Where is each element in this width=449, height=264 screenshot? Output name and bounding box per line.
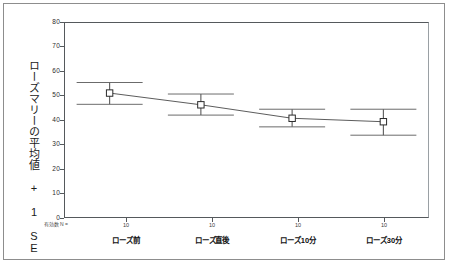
y-tick-mark-10 [60,193,64,194]
x-category-label-4: ローズ30分 [339,236,429,245]
y-tick-label-50: 50 [34,92,60,99]
x-count-4: 10 [364,222,404,228]
y-tick-label-80: 80 [34,19,60,26]
y-tick-label-30: 30 [34,141,60,148]
y-tick-label-60: 60 [34,68,60,75]
y-tick-mark-60 [60,71,64,72]
x-category-label-1: ローズ前 [81,236,171,245]
x-count-2: 10 [192,222,232,228]
y-tick-mark-0 [60,218,64,219]
y-tick-label-10: 10 [34,190,60,197]
y-tick-mark-50 [60,95,64,96]
x-category-label-3: ローズ10分 [253,236,343,245]
y-tick-mark-70 [60,46,64,47]
valid-n-note: 有効数 N = [32,221,68,227]
plot-panel [64,22,429,218]
x-count-3: 10 [278,222,318,228]
x-count-1: 10 [106,222,146,228]
y-tick-label-40: 40 [34,117,60,124]
y-tick-mark-80 [60,22,64,23]
y-tick-mark-20 [60,169,64,170]
figure-canvas: ローズマリーの平均値 + 1 SE 80 70 60 50 40 30 20 1… [0,0,449,264]
y-tick-label-70: 70 [34,43,60,50]
y-tick-label-20: 20 [34,166,60,173]
y-tick-mark-40 [60,120,64,121]
x-category-label-2: ローズ直後 [167,236,257,245]
y-tick-mark-30 [60,144,64,145]
